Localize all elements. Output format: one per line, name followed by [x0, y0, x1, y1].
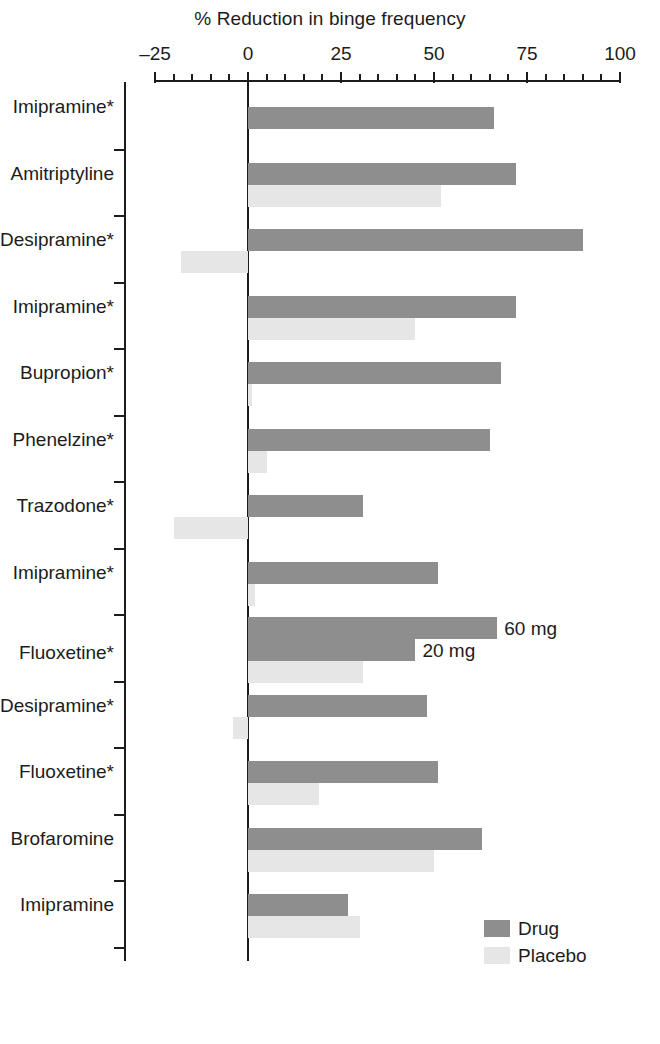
chart-row: Fluoxetine*60 mg20 mg: [0, 620, 660, 687]
category-label: Amitriptyline: [11, 163, 114, 185]
x-tick--10: [210, 74, 212, 80]
placebo-bar: [248, 584, 255, 606]
x-tick-label-0: 0: [243, 43, 254, 65]
x-tick-20: [321, 74, 323, 80]
x-tick-5: [266, 74, 268, 80]
drug-bar: [248, 761, 438, 783]
drug-bar-60mg: [248, 617, 497, 639]
legend-swatch-icon: [484, 920, 510, 937]
legend-item: Drug: [484, 918, 587, 938]
chart-row: Brofaromine: [0, 820, 660, 887]
chart-title: % Reduction in binge frequency: [0, 8, 660, 30]
category-tick: [114, 747, 125, 749]
category-tick: [114, 348, 125, 350]
chart-row: Imipramine*: [0, 88, 660, 155]
x-tick-label--25: –25: [139, 43, 171, 65]
chart-row: Amitriptyline: [0, 155, 660, 222]
category-label: Brofaromine: [11, 828, 115, 850]
placebo-bar: [248, 185, 441, 207]
drug-bar: [248, 229, 583, 251]
x-tick-label-100: 100: [604, 43, 636, 65]
category-tick: [114, 481, 125, 483]
category-label: Trazodone*: [16, 495, 114, 517]
drug-bar: [248, 362, 501, 384]
chart-legend: DrugPlacebo: [484, 918, 587, 972]
chart-row: Desipramine*: [0, 687, 660, 754]
legend-item: Placebo: [484, 945, 587, 965]
x-tick-55: [452, 74, 454, 80]
x-tick-60: [470, 74, 472, 80]
placebo-bar: [181, 251, 248, 273]
chart-row: Trazodone*: [0, 487, 660, 554]
x-tick--20: [173, 74, 175, 80]
x-tick-70: [507, 74, 509, 80]
x-tick-15: [303, 74, 305, 80]
drug-bar: [248, 296, 516, 318]
x-tick--5: [228, 74, 230, 80]
placebo-bar: [174, 517, 248, 539]
drug-bar-20mg: [248, 639, 415, 661]
x-tick-label-50: 50: [423, 43, 444, 65]
category-tick: [114, 614, 125, 616]
category-tick: [114, 548, 125, 550]
legend-label: Drug: [518, 919, 559, 938]
category-label: Imipramine*: [13, 562, 114, 584]
category-label: Desipramine*: [0, 229, 114, 251]
drug-bar: [248, 562, 438, 584]
category-tick: [114, 880, 125, 882]
legend-swatch-icon: [484, 947, 510, 964]
x-tick-label-25: 25: [330, 43, 351, 65]
placebo-bar: [233, 717, 248, 739]
drug-bar: [248, 495, 363, 517]
drug-bar: [248, 894, 348, 916]
drug-bar: [248, 828, 482, 850]
legend-label: Placebo: [518, 946, 587, 965]
placebo-bar: [248, 661, 363, 683]
category-label: Desipramine*: [0, 695, 114, 717]
category-tick: [114, 947, 125, 949]
placebo-bar: [248, 451, 267, 473]
chart-row: Fluoxetine*: [0, 753, 660, 820]
chart-row: Desipramine*: [0, 221, 660, 288]
x-tick-90: [582, 74, 584, 80]
chart-row: Bupropion*: [0, 354, 660, 421]
category-tick: [114, 282, 125, 284]
placebo-bar: [248, 850, 434, 872]
category-tick: [114, 149, 125, 151]
x-tick-65: [489, 74, 491, 80]
x-tick-85: [563, 74, 565, 80]
chart-row: Imipramine*: [0, 288, 660, 355]
drug-bar: [248, 695, 427, 717]
category-tick: [114, 681, 125, 683]
drug-bar: [248, 107, 494, 129]
placebo-bar: [248, 318, 415, 340]
category-label: Imipramine: [20, 894, 114, 916]
category-label: Fluoxetine*: [19, 642, 114, 664]
drug-bar: [248, 429, 490, 451]
placebo-bar: [248, 783, 319, 805]
category-label: Bupropion*: [20, 362, 114, 384]
category-label: Imipramine*: [13, 296, 114, 318]
chart-row: Phenelzine*: [0, 421, 660, 488]
x-tick-45: [414, 74, 416, 80]
x-tick-10: [284, 74, 286, 80]
plot-area: Imipramine*AmitriptylineDesipramine*Imip…: [0, 82, 660, 962]
category-label: Imipramine*: [13, 96, 114, 118]
x-tick-80: [545, 74, 547, 80]
placebo-bar: [248, 916, 360, 938]
x-tick-95: [600, 74, 602, 80]
category-label: Phenelzine*: [13, 429, 114, 451]
x-tick-40: [396, 74, 398, 80]
drug-bar: [248, 163, 516, 185]
category-tick: [114, 814, 125, 816]
bar-annotation: 60 mg: [504, 618, 557, 640]
placebo-bar: [248, 384, 252, 406]
chart-root: % Reduction in binge frequency –25025507…: [0, 0, 660, 1044]
category-tick: [114, 415, 125, 417]
x-tick-30: [359, 74, 361, 80]
x-tick--15: [191, 74, 193, 80]
category-label: Fluoxetine*: [19, 761, 114, 783]
x-tick-35: [377, 74, 379, 80]
x-axis-tick-labels: –250255075100: [0, 43, 660, 67]
chart-row: Imipramine*: [0, 554, 660, 621]
